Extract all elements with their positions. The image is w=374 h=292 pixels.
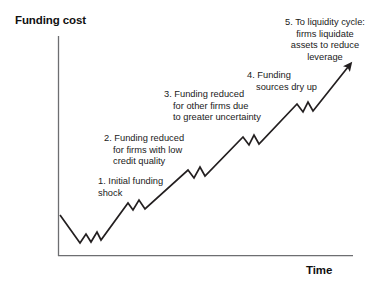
annotation-funding-sources-dry-up: 4. Funding sources dry up bbox=[247, 70, 317, 93]
annotation-line: to greater uncertainty bbox=[164, 112, 261, 124]
annotation-line: 1. Initial funding bbox=[98, 176, 163, 188]
annotation-line: shock bbox=[98, 188, 163, 200]
figure-canvas: Funding cost Time 1. Initial funding sho… bbox=[0, 0, 374, 292]
annotation-line: for firms with low bbox=[104, 145, 184, 157]
annotation-funding-reduced-other-firms: 3. Funding reduced for other firms due t… bbox=[164, 89, 261, 124]
annotation-line: 5. To liquidity cycle: bbox=[285, 17, 365, 29]
annotation-line: assets to reduce bbox=[285, 40, 365, 52]
annotation-line: credit quality bbox=[104, 156, 184, 168]
annotation-line: 2. Funding reduced bbox=[104, 133, 184, 145]
annotation-liquidity-cycle: 5. To liquidity cycle: firms liquidate a… bbox=[285, 17, 365, 63]
annotation-funding-reduced-low-credit: 2. Funding reduced for firms with low cr… bbox=[104, 133, 184, 168]
annotation-line: firms liquidate bbox=[285, 29, 365, 41]
y-axis-label: Funding cost bbox=[15, 14, 86, 26]
annotation-line: 4. Funding bbox=[247, 70, 317, 82]
x-axis-label: Time bbox=[306, 264, 332, 276]
annotation-initial-funding-shock: 1. Initial funding shock bbox=[98, 176, 163, 199]
annotation-line: leverage bbox=[285, 52, 365, 64]
annotation-line: for other firms due bbox=[164, 101, 261, 113]
annotation-line: sources dry up bbox=[247, 82, 317, 94]
